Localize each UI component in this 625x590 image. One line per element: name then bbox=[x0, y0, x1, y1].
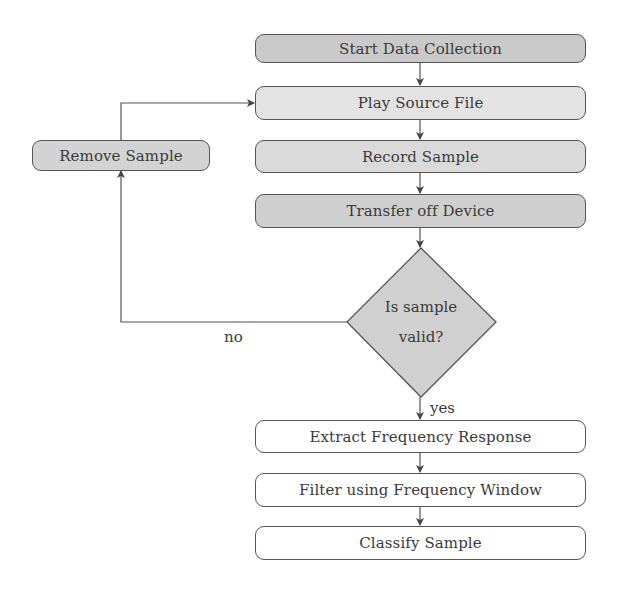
node-label: Transfer off Device bbox=[346, 202, 494, 220]
node-label: Record Sample bbox=[362, 148, 479, 166]
node-label: Filter using Frequency Window bbox=[299, 481, 542, 499]
node-record-sample: Record Sample bbox=[255, 140, 586, 173]
node-label: Extract Frequency Response bbox=[310, 428, 532, 446]
node-label: Play Source File bbox=[358, 94, 484, 112]
node-remove-sample: Remove Sample bbox=[32, 140, 210, 171]
edge-label-yes: yes bbox=[430, 399, 455, 417]
node-start-data-collection: Start Data Collection bbox=[255, 34, 586, 63]
node-label: Classify Sample bbox=[359, 534, 481, 552]
node-play-source-file: Play Source File bbox=[255, 86, 586, 120]
node-transfer-off-device: Transfer off Device bbox=[255, 194, 586, 228]
node-label: Remove Sample bbox=[59, 147, 183, 165]
decision-label: Is sample valid? bbox=[361, 292, 481, 352]
node-extract-frequency-response: Extract Frequency Response bbox=[255, 420, 586, 453]
decision-line-1: Is sample bbox=[361, 292, 481, 322]
node-label: Start Data Collection bbox=[339, 40, 502, 58]
node-filter-frequency-window: Filter using Frequency Window bbox=[255, 473, 586, 507]
edge-label-no: no bbox=[224, 328, 243, 346]
edge-remove-play bbox=[121, 103, 254, 140]
node-classify-sample: Classify Sample bbox=[255, 526, 586, 560]
decision-line-2: valid? bbox=[361, 322, 481, 352]
